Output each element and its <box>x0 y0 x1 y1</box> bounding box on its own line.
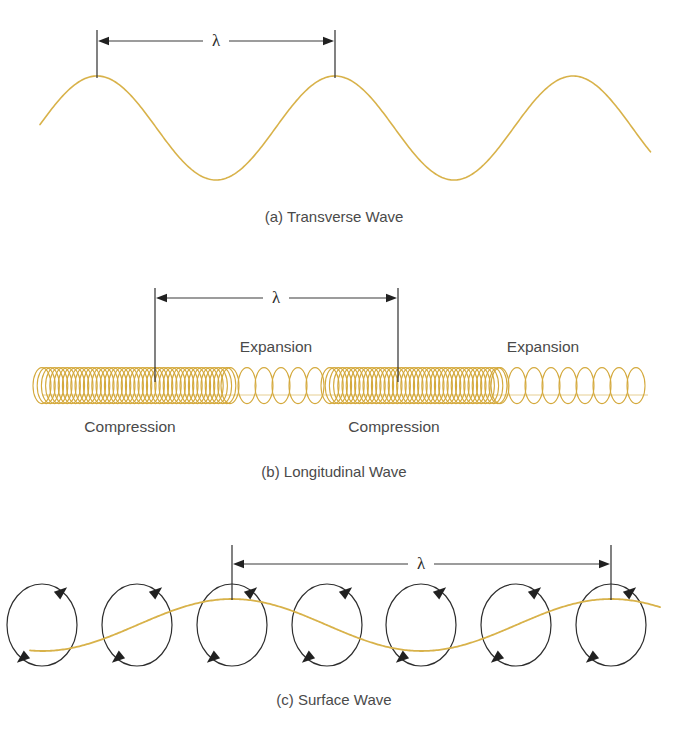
wave-diagram-canvas: λ (a) Transverse Wave λ Expansion Expans… <box>0 0 681 744</box>
wave-diagram-figure: λ (a) Transverse Wave λ Expansion Expans… <box>0 0 681 744</box>
compression-label-second: Compression <box>348 418 439 435</box>
transverse-caption: (a) Transverse Wave <box>265 208 404 225</box>
expansion-label-second: Expansion <box>507 338 579 355</box>
surface-caption: (c) Surface Wave <box>276 691 391 708</box>
longitudinal-caption: (b) Longitudinal Wave <box>261 463 406 480</box>
expansion-label-first: Expansion <box>240 338 312 355</box>
longitudinal-lambda-label: λ <box>272 288 281 307</box>
transverse-lambda-label: λ <box>212 31 221 50</box>
compression-label-first: Compression <box>84 418 175 435</box>
surface-lambda-label: λ <box>417 554 426 573</box>
